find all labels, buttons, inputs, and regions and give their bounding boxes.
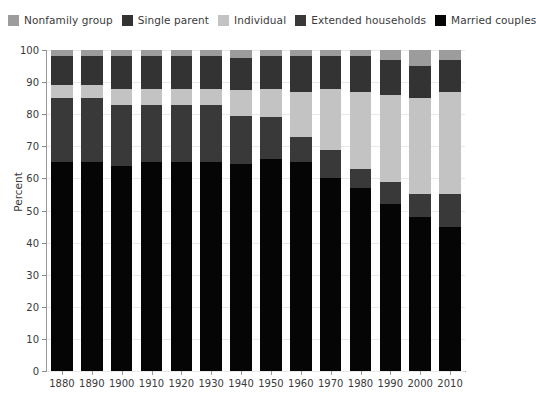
bar-segment[interactable] <box>409 217 430 371</box>
bar-group[interactable] <box>51 50 72 371</box>
x-axis-tick-mark <box>62 371 63 375</box>
bar-segment[interactable] <box>320 150 341 179</box>
bar-group[interactable] <box>111 50 132 371</box>
bar-group[interactable] <box>171 50 192 371</box>
bar-segment[interactable] <box>51 56 72 85</box>
y-axis-tick-label: 80 <box>13 109 39 120</box>
y-axis-tick-label: 100 <box>13 45 39 56</box>
x-axis-tick-mark <box>271 371 272 375</box>
bar-segment[interactable] <box>171 162 192 371</box>
bar-segment[interactable] <box>200 105 221 163</box>
bar-group[interactable] <box>230 50 251 371</box>
bar-segment[interactable] <box>141 50 162 56</box>
bar-segment[interactable] <box>200 89 221 105</box>
bar-segment[interactable] <box>260 159 281 371</box>
bar-segment[interactable] <box>81 50 102 56</box>
bar-segment[interactable] <box>350 50 371 56</box>
bar-segment[interactable] <box>380 182 401 204</box>
bar-segment[interactable] <box>171 105 192 163</box>
bar-segment[interactable] <box>171 56 192 88</box>
bar-segment[interactable] <box>439 92 460 195</box>
bar-segment[interactable] <box>81 85 102 98</box>
bar-segment[interactable] <box>111 166 132 371</box>
bar-segment[interactable] <box>350 188 371 371</box>
bar-segment[interactable] <box>200 56 221 88</box>
bar-group[interactable] <box>350 50 371 371</box>
bar-segment[interactable] <box>81 56 102 85</box>
y-axis-tick-mark <box>42 339 46 340</box>
gridline <box>47 178 465 179</box>
bar-segment[interactable] <box>409 98 430 194</box>
bar-segment[interactable] <box>230 116 251 164</box>
bar-segment[interactable] <box>230 50 251 58</box>
bar-group[interactable] <box>200 50 221 371</box>
bar-segment[interactable] <box>439 227 460 371</box>
bar-segment[interactable] <box>51 85 72 98</box>
bar-segment[interactable] <box>111 56 132 88</box>
bar-segment[interactable] <box>439 50 460 60</box>
bar-segment[interactable] <box>141 89 162 105</box>
bar-segment[interactable] <box>141 56 162 88</box>
y-axis-tick-mark <box>42 146 46 147</box>
bar-segment[interactable] <box>51 98 72 162</box>
bar-segment[interactable] <box>380 60 401 95</box>
bar-segment[interactable] <box>439 60 460 92</box>
bar-segment[interactable] <box>51 162 72 371</box>
x-axis-tick-mark <box>420 371 421 375</box>
gridline <box>47 307 465 308</box>
bar-segment[interactable] <box>260 89 281 118</box>
bar-segment[interactable] <box>260 50 281 56</box>
bar-segment[interactable] <box>111 50 132 56</box>
bar-segment[interactable] <box>230 58 251 90</box>
bar-segment[interactable] <box>439 194 460 226</box>
bar-segment[interactable] <box>51 50 72 56</box>
bar-segment[interactable] <box>380 95 401 182</box>
bar-group[interactable] <box>260 50 281 371</box>
x-axis-tick-mark <box>122 371 123 375</box>
x-axis-tick-mark <box>92 371 93 375</box>
bar-segment[interactable] <box>350 56 371 91</box>
bar-segment[interactable] <box>230 90 251 116</box>
bar-segment[interactable] <box>200 50 221 56</box>
bar-segment[interactable] <box>409 194 430 216</box>
bar-segment[interactable] <box>141 162 162 371</box>
y-axis-tick-label: 90 <box>13 77 39 88</box>
bar-group[interactable] <box>81 50 102 371</box>
bar-segment[interactable] <box>260 56 281 88</box>
bar-segment[interactable] <box>141 105 162 163</box>
bar-segment[interactable] <box>290 56 311 91</box>
bar-group[interactable] <box>320 50 341 371</box>
bar-segment[interactable] <box>111 105 132 166</box>
bar-segment[interactable] <box>320 56 341 88</box>
bar-segment[interactable] <box>290 162 311 371</box>
bar-segment[interactable] <box>111 89 132 105</box>
bar-segment[interactable] <box>230 164 251 371</box>
bar-segment[interactable] <box>409 66 430 98</box>
bar-segment[interactable] <box>380 50 401 60</box>
bar-segment[interactable] <box>380 204 401 371</box>
y-axis-tick-mark <box>42 211 46 212</box>
bar-segment[interactable] <box>260 117 281 159</box>
bar-group[interactable] <box>380 50 401 371</box>
bar-segment[interactable] <box>350 92 371 169</box>
bar-segment[interactable] <box>81 162 102 371</box>
x-axis-tick-mark <box>450 371 451 375</box>
bar-segment[interactable] <box>81 98 102 162</box>
bar-group[interactable] <box>409 50 430 371</box>
bar-segment[interactable] <box>200 162 221 371</box>
bar-segment[interactable] <box>171 89 192 105</box>
bar-segment[interactable] <box>409 50 430 66</box>
bar-segment[interactable] <box>290 50 311 56</box>
bar-segment[interactable] <box>320 89 341 150</box>
gridline <box>47 211 465 212</box>
bar-segment[interactable] <box>290 137 311 163</box>
bar-group[interactable] <box>290 50 311 371</box>
bar-group[interactable] <box>439 50 460 371</box>
gridline <box>47 339 465 340</box>
bar-segment[interactable] <box>171 50 192 56</box>
bar-segment[interactable] <box>320 178 341 371</box>
bar-segment[interactable] <box>350 169 371 188</box>
bar-segment[interactable] <box>290 92 311 137</box>
bar-group[interactable] <box>141 50 162 371</box>
bar-segment[interactable] <box>320 50 341 56</box>
